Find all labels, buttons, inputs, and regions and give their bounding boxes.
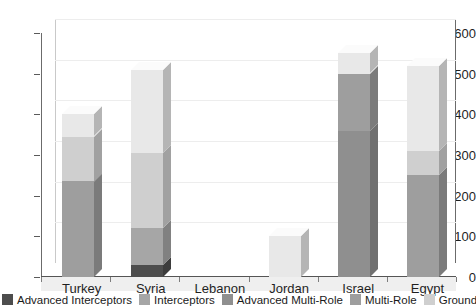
y-axis: [0, 0, 34, 308]
y-axis-tick: [34, 74, 40, 75]
y-axis-tick: [34, 33, 40, 34]
bar-column[interactable]: [338, 33, 370, 277]
legend-label: Multi-Role: [365, 294, 417, 306]
x-axis-tick: [110, 277, 111, 282]
gridline: [55, 141, 456, 142]
legend-item[interactable]: Advanced Multi-Role: [222, 294, 343, 306]
legend-swatch-icon: [2, 294, 13, 305]
bar-column[interactable]: [269, 33, 301, 277]
bar-segment[interactable]: [62, 137, 94, 182]
legend-swatch-icon: [350, 294, 361, 305]
bar-segment[interactable]: [338, 131, 370, 277]
stacked-column-chart: 0100200300400500600 TurkeySyriaLebanonJo…: [0, 0, 476, 308]
y-axis-tick: [34, 114, 40, 115]
bar-segment-side: [439, 167, 447, 277]
bar-segment[interactable]: [269, 236, 301, 277]
bar-segment[interactable]: [62, 114, 94, 136]
chart-legend: Advanced InterceptorsInterceptorsAdvance…: [0, 291, 476, 308]
gridline: [55, 182, 456, 183]
x-axis-tick: [179, 277, 180, 282]
bar-segment[interactable]: [131, 228, 163, 265]
bar-segment[interactable]: [338, 53, 370, 73]
bar-segment-side: [439, 58, 447, 151]
x-axis-tick: [318, 277, 319, 282]
legend-item[interactable]: Advanced Interceptors: [2, 294, 132, 306]
gridline: [55, 222, 456, 223]
bar-segment-side: [301, 228, 309, 277]
y-axis-tick: [34, 155, 40, 156]
legend-swatch-icon: [222, 294, 233, 305]
gridline: [55, 19, 456, 20]
bar-column[interactable]: [131, 33, 163, 277]
bar-segment[interactable]: [131, 70, 163, 153]
x-axis-tick: [456, 277, 457, 282]
bar-column[interactable]: [62, 33, 94, 277]
bar-segment-side: [370, 123, 378, 277]
legend-swatch-icon: [424, 294, 435, 305]
bar-segment-side: [370, 66, 378, 131]
x-axis-tick: [249, 277, 250, 282]
legend-label: Advanced Interceptors: [17, 294, 132, 306]
legend-swatch-icon: [139, 294, 150, 305]
legend-label: Ground Attack: [439, 294, 476, 306]
bar-segment-side: [94, 173, 102, 277]
bar-segment-side: [163, 62, 171, 153]
gridline: [55, 60, 456, 61]
y-axis-tick: [34, 277, 40, 278]
bar-segment-side: [163, 145, 171, 228]
bar-segment[interactable]: [131, 265, 163, 277]
gridline: [55, 100, 456, 101]
bar-segment-side: [94, 129, 102, 182]
legend-item[interactable]: Interceptors: [139, 294, 215, 306]
bar-segment[interactable]: [407, 175, 439, 277]
y-axis-tick: [34, 196, 40, 197]
bar-segment[interactable]: [131, 153, 163, 228]
bar-column[interactable]: [407, 33, 439, 277]
legend-item[interactable]: Ground Attack: [424, 294, 476, 306]
bar-column[interactable]: [200, 33, 232, 277]
x-axis-tick: [41, 277, 42, 282]
bar-segment[interactable]: [407, 151, 439, 175]
legend-label: Advanced Multi-Role: [237, 294, 343, 306]
plot-area: [41, 33, 456, 277]
bar-segment[interactable]: [407, 66, 439, 151]
bar-segment[interactable]: [338, 74, 370, 131]
y-axis-tick: [34, 236, 40, 237]
bar-segment[interactable]: [62, 181, 94, 277]
x-axis-tick: [387, 277, 388, 282]
value-axis-line: [41, 33, 42, 277]
legend-item[interactable]: Multi-Role: [350, 294, 417, 306]
legend-label: Interceptors: [154, 294, 215, 306]
